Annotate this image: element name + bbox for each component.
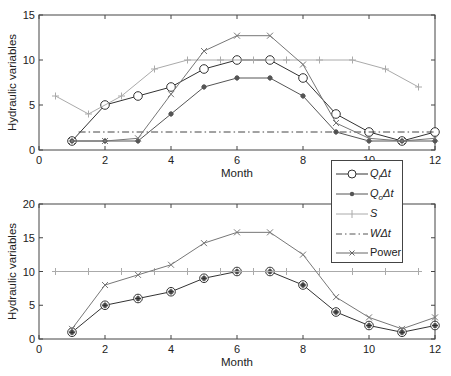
y-tick-label: 5 bbox=[29, 99, 35, 111]
y-tick-label: 10 bbox=[23, 266, 35, 278]
legend-item-qi: QiΔt bbox=[332, 164, 402, 184]
x-tick-label: 12 bbox=[429, 343, 441, 355]
x-tick-label: 8 bbox=[300, 154, 306, 166]
legend-item-power: Power bbox=[332, 243, 402, 263]
y-tick-label: 5 bbox=[29, 299, 35, 311]
x-tick-label: 10 bbox=[363, 343, 375, 355]
legend-label-power: Power bbox=[370, 246, 401, 258]
y-tick-label: 15 bbox=[23, 232, 35, 244]
y-tick-label: 20 bbox=[23, 198, 35, 210]
y-axis-title: Hydraulic variables bbox=[6, 34, 18, 131]
chart-legend: QiΔt QoΔt S WΔt Power bbox=[331, 160, 403, 263]
legend-label-qo: QoΔt bbox=[370, 187, 393, 202]
x-axis-title: Month bbox=[221, 356, 253, 368]
chart-panel-1: 024681012051015MonthHydraulic variables bbox=[6, 9, 441, 179]
legend-item-qo: QoΔt bbox=[332, 184, 402, 204]
x-tick-label: 2 bbox=[102, 154, 108, 166]
x-tick-label: 6 bbox=[234, 154, 240, 166]
plus-marker-icon bbox=[336, 206, 370, 222]
x-tick-label: 0 bbox=[36, 343, 42, 355]
series-power bbox=[69, 33, 438, 144]
x-tick-label: 4 bbox=[168, 343, 174, 355]
x-tick-label: 4 bbox=[168, 154, 174, 166]
y-tick-label: 0 bbox=[29, 333, 35, 345]
series-qot bbox=[69, 75, 438, 144]
x-tick-label: 12 bbox=[429, 154, 441, 166]
dash-dot-line-icon bbox=[336, 226, 370, 242]
circle-marker-icon bbox=[336, 166, 370, 182]
legend-label-w: WΔt bbox=[370, 227, 391, 239]
y-tick-label: 15 bbox=[23, 9, 35, 21]
y-tick-label: 10 bbox=[23, 54, 35, 66]
x-tick-label: 2 bbox=[102, 343, 108, 355]
legend-label-s: S bbox=[370, 207, 377, 219]
x-axis-title: Month bbox=[221, 167, 253, 179]
legend-item-s: S bbox=[332, 204, 402, 224]
star-marker-icon bbox=[336, 186, 370, 202]
series-qit bbox=[68, 267, 440, 336]
x-tick-label: 6 bbox=[234, 343, 240, 355]
legend-label-qi: QiΔt bbox=[370, 167, 391, 182]
x-marker-icon bbox=[336, 245, 370, 261]
x-tick-label: 0 bbox=[36, 154, 42, 166]
y-tick-label: 0 bbox=[29, 144, 35, 156]
y-axis-title: Hydraulic variables bbox=[6, 223, 18, 320]
x-tick-label: 8 bbox=[300, 343, 306, 355]
legend-item-w: WΔt bbox=[332, 224, 402, 244]
